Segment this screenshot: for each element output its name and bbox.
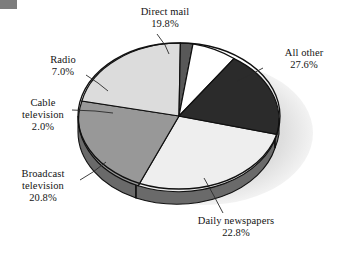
- slice-label-radio-name: Radio: [32, 54, 94, 66]
- slice-label-all-other-percent: 27.6%: [265, 59, 343, 71]
- slice-label-cable-television: Cable television 2.0%: [6, 97, 80, 132]
- slice-label-broadcast-television: Broadcast television 20.8%: [3, 168, 83, 203]
- slice-label-daily-newspapers-name: Daily newspapers: [178, 215, 294, 227]
- slice-label-all-other: All other 27.6%: [265, 47, 343, 71]
- slice-label-direct-mail-name: Direct mail: [113, 6, 217, 18]
- slice-label-direct-mail: Direct mail 19.8%: [113, 6, 217, 30]
- slice-label-cable-television-percent: 2.0%: [6, 121, 80, 133]
- slice-label-radio-percent: 7.0%: [32, 66, 94, 78]
- slice-label-broadcast-television-name2: television: [3, 180, 83, 192]
- slice-label-cable-television-name: Cable: [6, 97, 80, 109]
- slice-label-cable-television-name2: television: [6, 109, 80, 121]
- slice-label-direct-mail-percent: 19.8%: [113, 18, 217, 30]
- slice-label-broadcast-television-name: Broadcast: [3, 168, 83, 180]
- slice-label-all-other-name: All other: [265, 47, 343, 59]
- slice-label-daily-newspapers: Daily newspapers 22.8%: [178, 215, 294, 239]
- pie-chart-figure: Direct mail 19.8% All other 27.6% Radio …: [0, 0, 346, 255]
- slice-label-daily-newspapers-percent: 22.8%: [178, 227, 294, 239]
- slice-label-broadcast-television-percent: 20.8%: [3, 192, 83, 204]
- slice-label-radio: Radio 7.0%: [32, 54, 94, 78]
